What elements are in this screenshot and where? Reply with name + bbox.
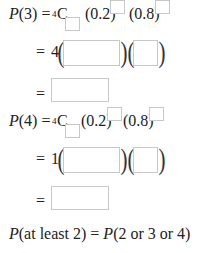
p4-r-input[interactable] — [65, 124, 80, 138]
p3-step-equals: = — [36, 43, 45, 61]
p3-equals: = — [41, 5, 50, 22]
p4-q-value-input[interactable] — [133, 147, 158, 173]
at-least-lhs-arg: (at least 2) — [19, 225, 87, 242]
p3-close-paren-2: ) — [159, 37, 166, 67]
p3-fn: P — [9, 5, 19, 22]
p4-result-equals: = — [36, 192, 45, 210]
p3-result-equals: = — [36, 85, 45, 103]
p3-close-paren-1: ) — [121, 37, 128, 67]
at-least-equals: = — [90, 225, 99, 242]
p4-answer-input[interactable] — [51, 186, 109, 210]
p3-answer-input[interactable] — [51, 78, 109, 102]
p4-arg: (4) — [19, 112, 38, 129]
p4-fn: P — [9, 112, 19, 129]
p4-n-subscript: 4 — [52, 116, 57, 126]
p4-p-exponent-input[interactable] — [107, 107, 122, 121]
at-least-equation: P(at least 2) = P(2 or 3 or 4) — [9, 225, 190, 243]
p3-equation: P(3) = — [9, 5, 50, 23]
at-least-lhs-fn: P — [9, 225, 19, 242]
p3-p-value-input[interactable] — [63, 40, 120, 66]
p4-q-exponent-input[interactable] — [149, 107, 164, 121]
p4-equals: = — [41, 112, 50, 129]
p3-p-exponent-input[interactable] — [110, 0, 125, 14]
p4-close-paren-1: ) — [121, 144, 128, 174]
at-least-rhs-arg: (2 or 3 or 4) — [113, 225, 190, 242]
p3-q-exponent-input[interactable] — [155, 0, 170, 14]
p4-p-value-input[interactable] — [63, 147, 120, 173]
p3-arg: (3) — [19, 5, 38, 22]
p4-equation: P(4) = — [9, 112, 50, 130]
at-least-rhs-fn: P — [103, 225, 113, 242]
p3-q-value-input[interactable] — [133, 40, 158, 66]
p4-close-paren-2: ) — [159, 144, 166, 174]
p4-step-equals: = — [36, 150, 45, 168]
p3-r-input[interactable] — [65, 17, 80, 31]
p3-n-subscript: 4 — [52, 9, 57, 19]
